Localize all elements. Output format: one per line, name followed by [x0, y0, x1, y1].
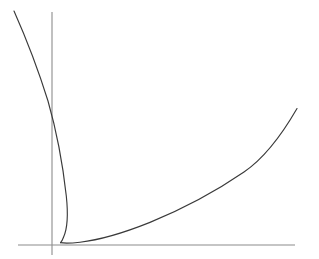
plot-canvas	[0, 0, 319, 259]
plot-background	[0, 0, 319, 259]
chart-figure	[0, 0, 319, 259]
